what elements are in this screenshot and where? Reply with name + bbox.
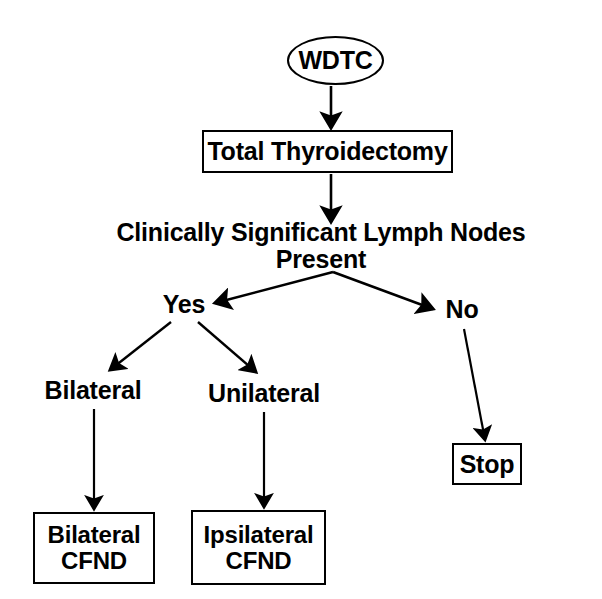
node-clinically-significant-lymph-nodes-present: Clinically Significant Lymph Nodes Prese… xyxy=(78,228,564,264)
edge-no-to-stop xyxy=(464,329,485,440)
node-stop-label: Stop xyxy=(460,451,515,478)
node-wdtc[interactable]: WDTC xyxy=(287,36,384,85)
edge-clinically-significant-to-yes xyxy=(215,272,333,303)
node-wdtc-label: WDTC xyxy=(298,47,372,74)
node-ipsilateral-cfnd-line2: CFND xyxy=(226,548,292,574)
edge-clinically-significant-to-no xyxy=(333,272,433,309)
node-clinically-significant-label: Clinically Significant Lymph Nodes Prese… xyxy=(78,219,564,273)
node-total-thyroidectomy-label: Total Thyroidectomy xyxy=(207,138,447,165)
node-unilateral: Unilateral xyxy=(202,377,326,409)
node-yes: Yes xyxy=(158,288,210,320)
edge-yes-to-bilateral xyxy=(110,322,171,370)
node-ipsilateral-cfnd[interactable]: Ipsilateral CFND xyxy=(191,510,326,585)
node-ipsilateral-cfnd-line1: Ipsilateral xyxy=(204,522,314,548)
node-no-label: No xyxy=(446,296,479,323)
edge-yes-to-unilateral xyxy=(198,322,256,372)
node-unilateral-label-text: Unilateral xyxy=(208,380,320,407)
node-no: No xyxy=(437,293,487,325)
node-total-thyroidectomy[interactable]: Total Thyroidectomy xyxy=(202,130,453,173)
flowchart-diagram: WDTC Total Thyroidectomy Clinically Sign… xyxy=(0,0,602,599)
node-bilateral-cfnd[interactable]: Bilateral CFND xyxy=(33,512,155,584)
node-bilateral-label-text: Bilateral xyxy=(45,377,142,404)
node-bilateral-cfnd-line1: Bilateral xyxy=(48,522,141,548)
node-bilateral-cfnd-line2: CFND xyxy=(61,548,127,574)
node-yes-label: Yes xyxy=(163,291,206,318)
node-stop[interactable]: Stop xyxy=(452,443,522,485)
node-bilateral: Bilateral xyxy=(38,374,148,406)
